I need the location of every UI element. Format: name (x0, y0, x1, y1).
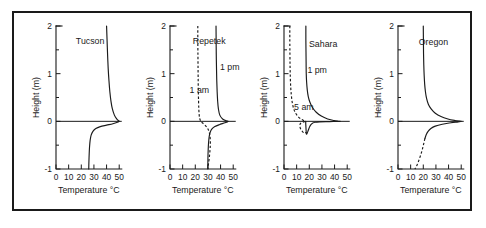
site-label: Tucson (76, 36, 105, 46)
curve-label-1-pm: 1 pm (307, 65, 327, 75)
curve-profile (89, 26, 120, 169)
curve-label-1-pm: 1 pm (220, 62, 240, 72)
x-tick-label: 10 (292, 172, 302, 182)
curve-label-5-am: 5 am (294, 102, 314, 112)
y-tick-label: 1 (389, 69, 394, 79)
y-axis-title: Height (m) (259, 77, 269, 118)
y-tick-label: 0 (275, 116, 280, 126)
y-axis-title: Height (m) (373, 77, 383, 118)
x-axis-title: Temperature °C (286, 185, 348, 195)
y-axis-title: Height (m) (31, 77, 41, 118)
y-tick-label: 2 (389, 21, 394, 31)
site-label: Repetek (193, 36, 226, 46)
panel-row: 210-101020304050TucsonTemperature °CHeig… (14, 13, 470, 209)
axis-spine (398, 26, 464, 169)
x-tick-label: 50 (229, 172, 239, 182)
x-tick-label: 20 (77, 172, 87, 182)
y-tick-label: 2 (161, 21, 166, 31)
y-tick-label: -1 (159, 164, 167, 174)
y-tick-label: -1 (45, 164, 53, 174)
x-tick-label: 30 (317, 172, 327, 182)
x-tick-label: 10 (64, 172, 74, 182)
y-tick-label: 2 (47, 21, 52, 31)
y-tick-label: 0 (161, 116, 166, 126)
x-tick-label: 10 (178, 172, 188, 182)
y-tick-label: -1 (387, 164, 395, 174)
panel-sahara: 210-1010203040501 pm5 amSaharaTemperatur… (242, 13, 356, 209)
x-axis-title: Temperature °C (58, 185, 120, 195)
x-tick-label: 0 (168, 172, 173, 182)
y-tick-label: 1 (161, 69, 166, 79)
panel-repetek: 210-1010203040501 pm1 amRepetekTemperatu… (128, 13, 242, 209)
axis-spine (56, 26, 122, 169)
x-tick-label: 10 (406, 172, 416, 182)
x-axis-title: Temperature °C (172, 185, 234, 195)
x-tick-label: 20 (305, 172, 315, 182)
curve-1-pm (208, 26, 228, 169)
axis-spine (170, 26, 236, 169)
x-tick-label: 0 (54, 172, 59, 182)
panel-tucson: 210-101020304050TucsonTemperature °CHeig… (14, 13, 128, 209)
x-tick-label: 30 (431, 172, 441, 182)
x-tick-label: 40 (444, 172, 454, 182)
x-tick-label: 50 (343, 172, 353, 182)
plot-oregon: 210-101020304050OregonTemperature °CHeig… (356, 13, 471, 209)
plot-sahara: 210-1010203040501 pm5 amSaharaTemperatur… (242, 13, 357, 209)
x-tick-label: 30 (89, 172, 99, 182)
x-axis-title: Temperature °C (400, 185, 462, 195)
site-label: Oregon (419, 37, 448, 47)
curve-label-1-am: 1 am (190, 85, 210, 95)
x-tick-label: 50 (115, 172, 125, 182)
y-tick-label: 1 (275, 69, 280, 79)
x-tick-label: 20 (419, 172, 429, 182)
x-tick-label: 40 (216, 172, 226, 182)
y-tick-label: 0 (389, 116, 394, 126)
x-tick-label: 0 (396, 172, 401, 182)
y-axis-title: Height (m) (145, 77, 155, 118)
x-tick-label: 50 (457, 172, 467, 182)
y-tick-label: -1 (273, 164, 281, 174)
plot-repetek: 210-1010203040501 pm1 amRepetekTemperatu… (128, 13, 243, 209)
y-tick-label: 0 (47, 116, 52, 126)
x-tick-label: 0 (282, 172, 287, 182)
curve-5-am (290, 26, 306, 133)
x-tick-label: 20 (191, 172, 201, 182)
figure-frame: 210-101020304050TucsonTemperature °CHeig… (12, 11, 472, 211)
x-tick-label: 30 (203, 172, 213, 182)
plot-tucson: 210-101020304050TucsonTemperature °CHeig… (14, 13, 129, 209)
y-tick-label: 1 (47, 69, 52, 79)
x-tick-label: 40 (102, 172, 112, 182)
y-tick-label: 2 (275, 21, 280, 31)
curve-below-ground (415, 138, 425, 169)
panel-oregon: 210-101020304050OregonTemperature °CHeig… (356, 13, 470, 209)
x-tick-label: 40 (330, 172, 340, 182)
site-label: Sahara (309, 39, 337, 49)
